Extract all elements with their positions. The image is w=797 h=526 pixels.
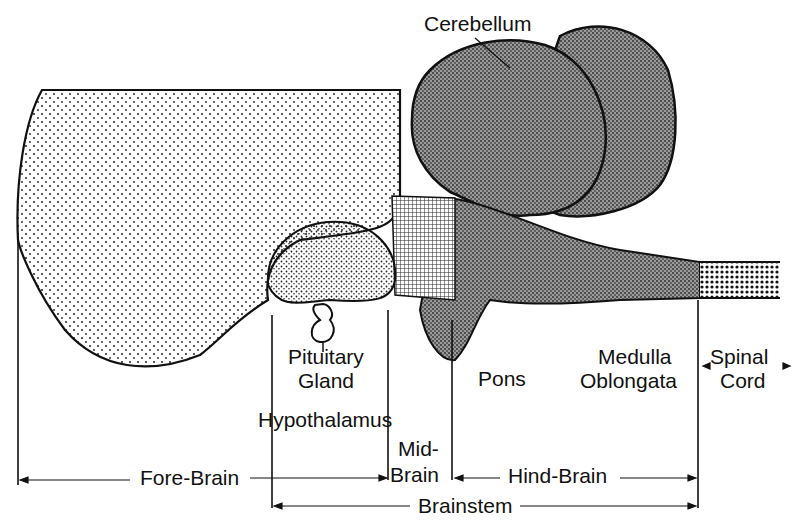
pituitary-label-line1: Pituitary (288, 345, 364, 368)
pons-label: Pons (478, 367, 526, 390)
hindbrain-label: Hind-Brain (508, 464, 607, 487)
medulla-label-line2: Oblongata (580, 369, 677, 392)
spinal-cord-shape (700, 262, 780, 298)
hypothalamus-label: Hypothalamus (258, 408, 392, 431)
midbrain-label-line2: Brain (390, 463, 439, 486)
midbrain-shape (392, 196, 455, 300)
medulla-label-line1: Medulla (598, 345, 672, 368)
pons-medulla-shape (420, 198, 700, 360)
forebrain-label: Fore-Brain (140, 466, 239, 489)
pituitary-label-line2: Gland (298, 369, 354, 392)
cerebellum-label: Cerebellum (424, 12, 531, 35)
midbrain-label-line1: Mid- (398, 437, 439, 460)
pituitary-shape (312, 304, 334, 342)
spinal-cord-label-line2: Cord (720, 369, 766, 392)
spinal-cord-label-line1: Spinal (710, 345, 768, 368)
brainstem-label: Brainstem (418, 494, 513, 517)
